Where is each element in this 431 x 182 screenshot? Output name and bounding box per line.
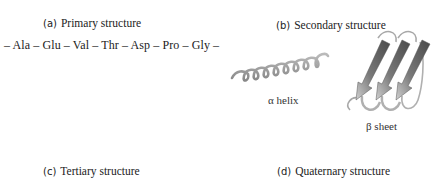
amino-acid-sequence: – Ala – Glu – Val – Thr – Asp – Pro – Gl… (4, 38, 219, 53)
panel-a-tag: (a) (43, 18, 57, 29)
alpha-helix-icon (228, 48, 338, 88)
panel-d-title: Quaternary structure (295, 165, 390, 177)
beta-sheet-label: β sheet (366, 120, 397, 132)
panel-b-tag: (b) (276, 20, 290, 31)
panel-c-caption: (c)Tertiary structure (43, 166, 140, 178)
panel-a-caption: (a)Primary structure (43, 18, 141, 30)
alpha-helix-label: α helix (268, 94, 299, 106)
panel-d-caption: (d)Quaternary structure (277, 166, 390, 178)
beta-sheet-icon (342, 28, 431, 118)
panel-c-title: Tertiary structure (60, 165, 139, 177)
panel-a-title: Primary structure (61, 17, 141, 29)
panel-c-tag: (c) (43, 166, 56, 177)
panel-d-tag: (d) (277, 166, 291, 177)
